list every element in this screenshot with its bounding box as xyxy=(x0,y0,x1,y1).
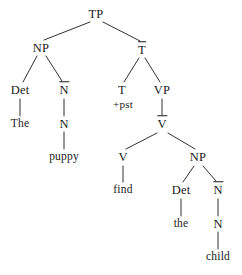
tree-node-label-pst: +pst xyxy=(113,98,133,110)
tree-node-label-t: T xyxy=(118,83,126,97)
tree-node-vbar: V xyxy=(157,117,166,131)
branch-np1-to-det1 xyxy=(23,56,37,82)
tree-node-n1: N xyxy=(59,118,68,131)
tree-node-nbar2: N xyxy=(213,183,222,197)
cropped-text-artifact xyxy=(26,0,72,5)
tree-node-label-np2: NP xyxy=(190,150,206,164)
tree-node-label-det2: Det xyxy=(172,183,191,197)
branch-np1-to-nbar1 xyxy=(46,56,62,81)
tree-node-label-vp: VP xyxy=(154,83,170,97)
tree-node-tbar: T xyxy=(138,43,146,57)
tree-node-the2: the xyxy=(174,218,189,230)
tree-node-label-det1: Det xyxy=(11,83,30,97)
tree-node-label-the1: The xyxy=(11,117,29,129)
tree-node-the1: The xyxy=(11,118,29,130)
branch-np2-to-det2 xyxy=(183,166,194,182)
tree-node-label-nbar2: N xyxy=(213,183,222,197)
tree-node-label-n1: N xyxy=(59,117,68,131)
tree-node-label-tp: TP xyxy=(89,7,104,21)
tree-node-np2: NP xyxy=(190,151,206,164)
branch-np2-to-nbar2 xyxy=(203,166,216,181)
tree-node-v: V xyxy=(118,151,127,164)
tree-node-child: child xyxy=(206,251,230,263)
tree-node-label-child: child xyxy=(206,250,230,262)
tree-node-label-tbar: T xyxy=(138,43,146,57)
syntax-tree-figure: TPNPTDetNTVP+pstTheNVpuppyVNPfindDetNthe… xyxy=(0,0,242,275)
tree-node-label-find: find xyxy=(113,183,132,195)
tree-node-t: T xyxy=(118,84,126,97)
tree-node-vp: VP xyxy=(154,84,170,97)
branch-vbar-to-np2 xyxy=(168,133,195,149)
tree-node-puppy: puppy xyxy=(49,151,79,163)
tree-node-label-np1: NP xyxy=(33,41,49,55)
tree-node-label-vbar: V xyxy=(157,117,166,131)
tree-node-n2: N xyxy=(213,218,222,231)
branch-tp-to-np1 xyxy=(44,22,90,40)
tree-node-label-puppy: puppy xyxy=(49,150,79,162)
tree-node-np1: NP xyxy=(33,42,49,55)
tree-node-nbar1: N xyxy=(59,83,68,97)
tree-node-det2: Det xyxy=(172,184,191,197)
branch-tp-to-tbar xyxy=(103,22,140,41)
tree-node-det1: Det xyxy=(11,84,30,97)
branch-tbar-to-t xyxy=(124,58,139,82)
tree-node-label-the2: the xyxy=(174,217,189,229)
tree-node-tp: TP xyxy=(89,8,104,21)
branch-tbar-to-vp xyxy=(145,58,160,82)
branch-vbar-to-v xyxy=(126,133,157,149)
tree-node-label-n2: N xyxy=(213,217,222,231)
tree-node-find: find xyxy=(113,184,132,196)
tree-node-label-v: V xyxy=(118,150,127,164)
tree-node-pst: +pst xyxy=(113,99,133,110)
tree-node-label-nbar1: N xyxy=(59,83,68,97)
